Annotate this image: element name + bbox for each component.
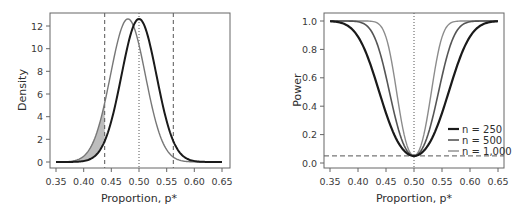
power-chart: 1.0 0.8 0.6 0.4 0.2 0.0 0.35 0.40 0.45 0… — [291, 13, 512, 205]
x-tick-label: 0.60 — [184, 176, 205, 187]
x-tick-label: 0.35 — [45, 176, 66, 187]
power-y-axis: 1.0 0.8 0.6 0.4 0.2 0.0 — [302, 16, 324, 169]
power-legend: n = 250 n = 500 n = 1,000 — [448, 124, 512, 157]
y-tick-label: 1.0 — [302, 16, 317, 27]
y-tick-label: 8 — [37, 66, 43, 77]
density-y-axis-title: Density — [16, 69, 29, 111]
x-tick-label: 0.35 — [319, 176, 340, 187]
y-tick-label: 6 — [37, 89, 43, 100]
legend-label-n500: n = 500 — [462, 135, 502, 146]
density-plot-area — [56, 13, 222, 168]
power-x-axis: 0.35 0.40 0.45 0.50 0.55 0.60 0.65 — [319, 168, 508, 187]
legend-label-n1000: n = 1,000 — [462, 146, 512, 157]
y-tick-label: 0 — [37, 157, 43, 168]
x-tick-label: 0.60 — [459, 176, 480, 187]
y-tick-label: 0.2 — [302, 129, 317, 140]
y-tick-label: 0.0 — [302, 158, 317, 169]
power-y-axis-title: Power — [291, 73, 304, 107]
x-tick-label: 0.40 — [73, 176, 94, 187]
legend-label-n250: n = 250 — [462, 124, 502, 135]
y-tick-label: 12 — [31, 21, 43, 32]
x-tick-label: 0.45 — [101, 176, 122, 187]
density-chart: 12 10 8 6 4 2 0 0.35 0.40 0.45 0.50 0.55… — [16, 13, 233, 205]
y-tick-label: 0.8 — [302, 44, 317, 55]
x-tick-label: 0.50 — [403, 176, 424, 187]
y-tick-label: 4 — [37, 111, 43, 122]
x-tick-label: 0.45 — [375, 176, 396, 187]
power-x-axis-title: Proportion, p* — [376, 192, 453, 205]
y-tick-label: 0.4 — [302, 101, 317, 112]
figure: 12 10 8 6 4 2 0 0.35 0.40 0.45 0.50 0.55… — [0, 0, 524, 217]
x-tick-label: 0.65 — [487, 176, 508, 187]
density-y-axis: 12 10 8 6 4 2 0 — [31, 21, 50, 168]
x-tick-label: 0.55 — [156, 176, 177, 187]
y-tick-label: 0.6 — [302, 72, 317, 83]
x-tick-label: 0.65 — [211, 176, 232, 187]
x-tick-label: 0.55 — [431, 176, 452, 187]
y-tick-label: 2 — [37, 134, 43, 145]
density-x-axis-title: Proportion, p* — [101, 192, 178, 205]
density-x-axis: 0.35 0.40 0.45 0.50 0.55 0.60 0.65 — [45, 168, 232, 187]
density-plot-frame — [50, 13, 230, 168]
y-tick-label: 10 — [31, 43, 43, 54]
x-tick-label: 0.40 — [347, 176, 368, 187]
x-tick-label: 0.50 — [128, 176, 149, 187]
